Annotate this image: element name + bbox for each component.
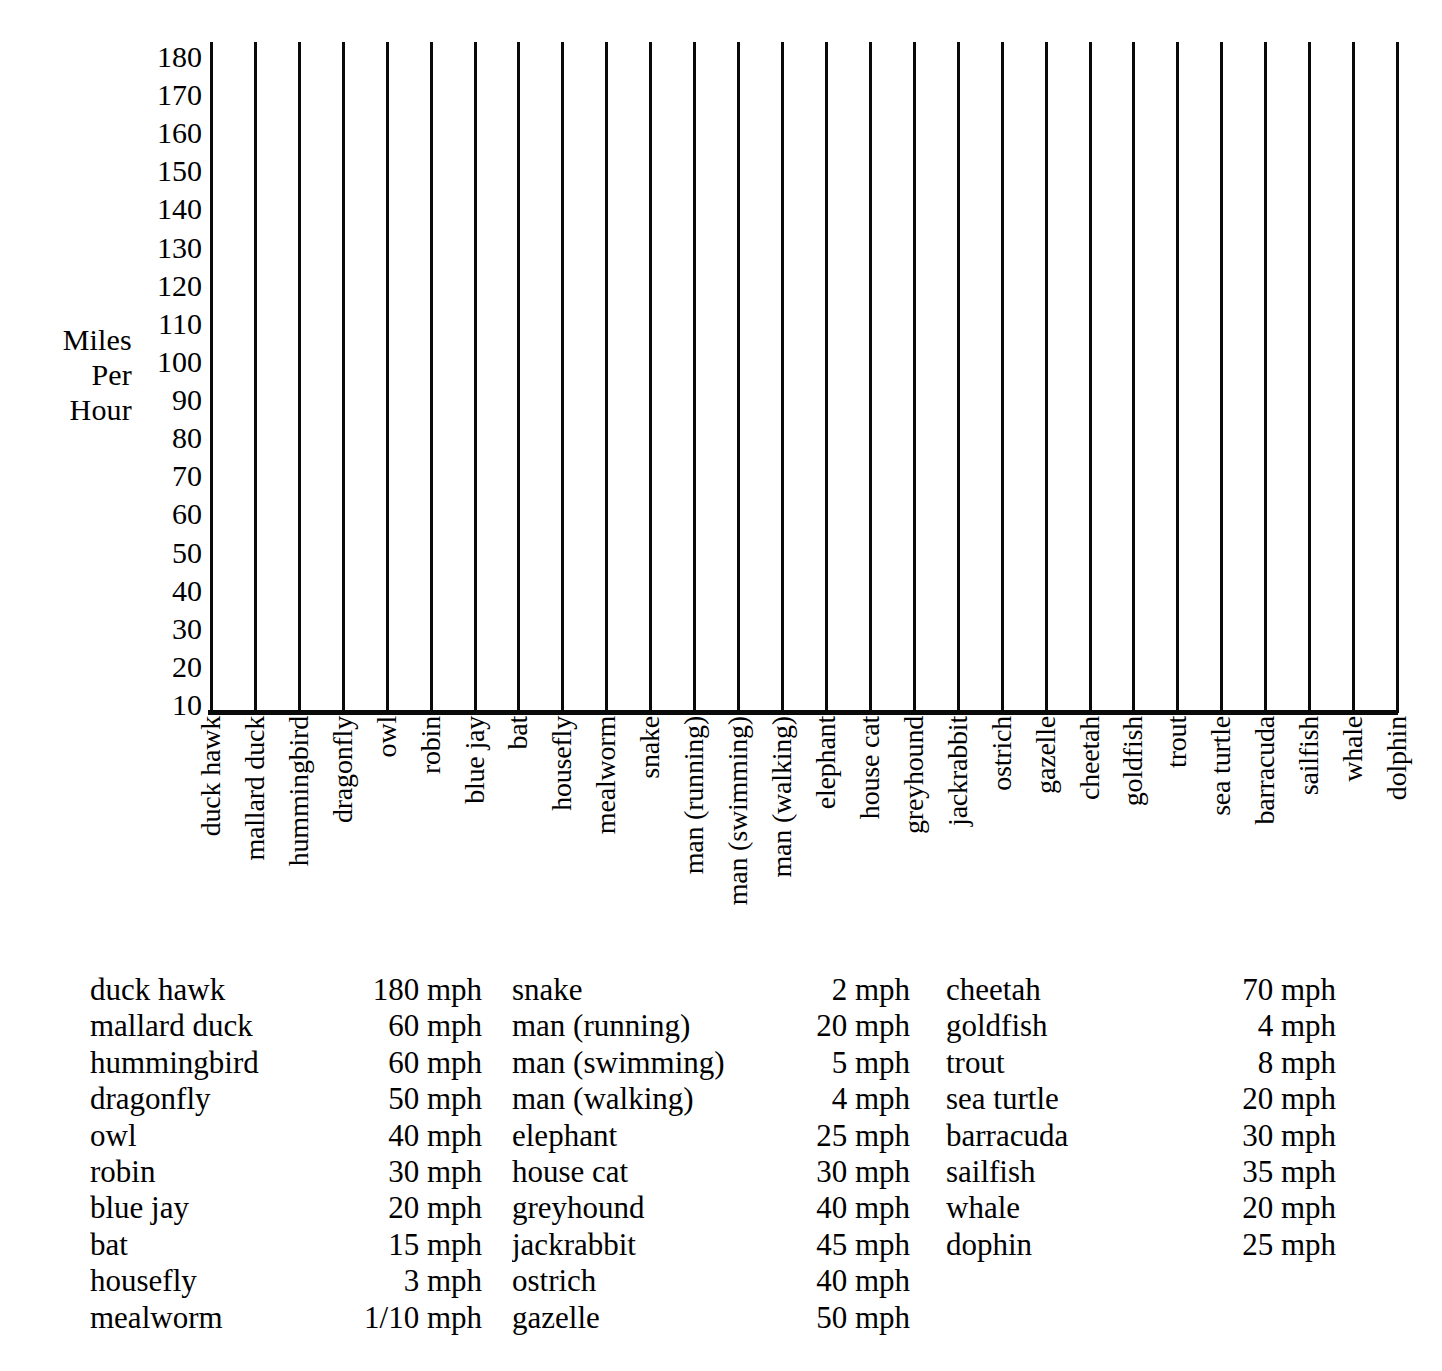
gridline-vertical	[1132, 42, 1135, 713]
x-axis-label: housefly	[548, 716, 576, 811]
y-axis-tick-130: 130	[120, 233, 202, 263]
table-cell-animal: gazelle	[512, 1300, 806, 1336]
table-cell-speed: 60 mph	[378, 1045, 482, 1081]
gridline-vertical	[1352, 42, 1355, 713]
table-cell-animal: greyhound	[512, 1190, 806, 1226]
table-cell-animal: whale	[946, 1190, 1232, 1226]
x-axis-label-slot: man (running)	[671, 716, 716, 942]
table-row: goldfish4 mph	[946, 1008, 1336, 1044]
y-axis-tick-labels: 1801701601501401301201101009080706050403…	[120, 0, 202, 720]
y-axis-tick-30: 30	[120, 614, 202, 644]
y-axis-title: Miles Per Hour	[20, 322, 132, 427]
table-row: greyhound40 mph	[512, 1190, 910, 1226]
x-axis-label: mallard duck	[241, 716, 269, 861]
x-axis-label: bat	[504, 716, 532, 750]
table-cell-animal: sailfish	[946, 1154, 1232, 1190]
y-axis-tick-110: 110	[120, 309, 202, 339]
table-row: blue jay20 mph	[90, 1190, 482, 1226]
x-axis-category-labels: duck hawkmallard duckhummingbirddragonfl…	[210, 716, 1410, 946]
x-axis-label-slot: whale	[1330, 716, 1375, 942]
x-axis-label: barracuda	[1251, 716, 1279, 825]
table-cell-animal: house cat	[512, 1154, 806, 1190]
gridline-vertical	[913, 42, 916, 713]
y-axis-tick-50: 50	[120, 538, 202, 568]
table-cell-animal: elephant	[512, 1118, 806, 1154]
table-cell-speed: 50 mph	[378, 1081, 482, 1117]
gridline-vertical	[430, 42, 433, 713]
x-axis-label-slot: duck hawk	[188, 716, 233, 942]
speed-reference-table: duck hawk180 mphmallard duck60 mphhummin…	[0, 972, 1442, 1371]
x-axis-label-slot: cheetah	[1067, 716, 1112, 942]
y-axis-tick-140: 140	[120, 194, 202, 224]
x-axis-label-slot: trout	[1154, 716, 1199, 942]
table-cell-animal: trout	[946, 1045, 1248, 1081]
plot-area-gridlines	[210, 42, 1396, 713]
x-axis-label: snake	[636, 716, 664, 779]
x-axis-label-slot: housefly	[539, 716, 584, 942]
table-row: dragonfly50 mph	[90, 1081, 482, 1117]
x-axis-label-slot: man (swimming)	[715, 716, 760, 942]
x-axis-label: robin	[417, 716, 445, 774]
table-cell-speed: 30 mph	[1232, 1118, 1336, 1154]
x-axis-label: goldfish	[1119, 716, 1147, 806]
table-cell-speed: 40 mph	[378, 1118, 482, 1154]
table-cell-speed: 50 mph	[806, 1300, 910, 1336]
x-axis-label-slot: dragonfly	[320, 716, 365, 942]
x-axis-label-slot: sailfish	[1286, 716, 1331, 942]
y-axis-tick-60: 60	[120, 499, 202, 529]
gridline-vertical	[781, 42, 784, 713]
table-cell-animal: ostrich	[512, 1263, 806, 1299]
y-axis-tick-70: 70	[120, 461, 202, 491]
x-axis-label: jackrabbit	[944, 716, 972, 826]
gridline-vertical	[737, 42, 740, 713]
x-axis-label: gazelle	[1032, 716, 1060, 794]
x-axis-label-slot: goldfish	[1110, 716, 1155, 942]
x-axis-label: greyhound	[900, 716, 928, 834]
table-row: sea turtle20 mph	[946, 1081, 1336, 1117]
table-row: barracuda30 mph	[946, 1118, 1336, 1154]
gridline-vertical	[693, 42, 696, 713]
x-axis-label-slot: house cat	[847, 716, 892, 942]
table-row: man (walking)4 mph	[512, 1081, 910, 1117]
y-axis-title-line-2: Per	[20, 357, 132, 392]
gridline-vertical	[869, 42, 872, 713]
table-cell-animal: man (running)	[512, 1008, 806, 1044]
table-row: man (running)20 mph	[512, 1008, 910, 1044]
gridline-vertical	[342, 42, 345, 713]
y-axis-tick-180: 180	[120, 42, 202, 72]
table-column-2: snake2 mphman (running)20 mphman (swimmi…	[512, 972, 910, 1336]
table-row: housefly3 mph	[90, 1263, 482, 1299]
x-axis-label-slot: elephant	[803, 716, 848, 942]
gridline-vertical	[1045, 42, 1048, 713]
y-axis-tick-40: 40	[120, 576, 202, 606]
gridline-vertical	[825, 42, 828, 713]
x-axis-label: sailfish	[1295, 716, 1323, 795]
gridline-vertical	[1264, 42, 1267, 713]
table-cell-animal: robin	[90, 1154, 378, 1190]
table-cell-speed: 20 mph	[378, 1190, 482, 1226]
x-axis-label: elephant	[812, 716, 840, 809]
x-axis-label: owl	[373, 716, 401, 757]
table-cell-speed: 8 mph	[1248, 1045, 1336, 1081]
x-axis-label-slot: greyhound	[891, 716, 936, 942]
y-axis-tick-160: 160	[120, 118, 202, 148]
x-axis-label: blue jay	[461, 716, 489, 804]
gridline-vertical	[474, 42, 477, 713]
table-cell-speed: 35 mph	[1232, 1154, 1336, 1190]
table-cell-animal: goldfish	[946, 1008, 1248, 1044]
table-row: hummingbird60 mph	[90, 1045, 482, 1081]
gridline-vertical	[957, 42, 960, 713]
x-axis-label-slot: bat	[495, 716, 540, 942]
table-cell-animal: mealworm	[90, 1300, 354, 1336]
table-row: duck hawk180 mph	[90, 972, 482, 1008]
table-row: jackrabbit45 mph	[512, 1227, 910, 1263]
table-cell-speed: 60 mph	[378, 1008, 482, 1044]
x-axis-label-slot: man (walking)	[759, 716, 804, 942]
table-cell-animal: sea turtle	[946, 1081, 1232, 1117]
y-axis-tick-100: 100	[120, 347, 202, 377]
table-cell-animal: bat	[90, 1227, 378, 1263]
x-axis-label: mealworm	[592, 716, 620, 834]
x-axis-label: house cat	[856, 716, 884, 819]
table-cell-speed: 40 mph	[806, 1190, 910, 1226]
table-row: house cat30 mph	[512, 1154, 910, 1190]
